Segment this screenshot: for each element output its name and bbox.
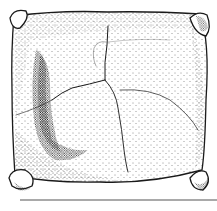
illustration (0, 0, 217, 211)
stippled-object-drawing (0, 0, 217, 211)
